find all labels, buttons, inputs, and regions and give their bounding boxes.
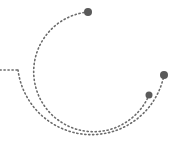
arc-svg [0, 0, 192, 162]
inner-dotted-arc [34, 12, 149, 132]
inner-arc-start-dot [84, 8, 92, 16]
outer-arc-end-dot [160, 71, 168, 79]
dotted-arc-graphic [0, 0, 192, 162]
outer-dotted-arc [18, 70, 164, 135]
inner-arc-end-dot [146, 92, 153, 99]
